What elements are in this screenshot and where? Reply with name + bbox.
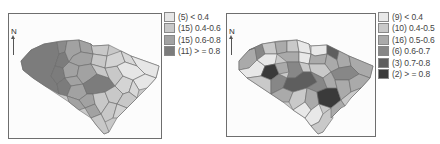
- legend-label: (16) 0.5-0.6: [392, 35, 435, 45]
- legend-swatch: [378, 12, 389, 22]
- legend-swatch: [164, 12, 175, 22]
- legend-swatch: [378, 58, 389, 68]
- legend-item: (5) < 0.4: [164, 11, 221, 23]
- legend-swatch: [378, 46, 389, 56]
- legend-label: (3) 0.7-0.8: [392, 58, 430, 68]
- right-map-frame: [226, 13, 376, 137]
- north-arrow: N: [11, 28, 17, 36]
- left-map-panel: N (5) < 0.4 (15) 0.4-0.6 (15) 0.6-0.8 (1…: [0, 0, 220, 144]
- legend-item: (6) 0.6-0.7: [378, 46, 435, 58]
- legend-label: (2) > = 0.8: [392, 69, 430, 79]
- legend-swatch: [164, 23, 175, 33]
- legend-item: (11) > = 0.8: [164, 46, 221, 58]
- legend-swatch: [378, 35, 389, 45]
- legend-label: (10) 0.4-0.5: [392, 23, 435, 33]
- right-map-legend: (9) < 0.4 (10) 0.4-0.5 (16) 0.5-0.6 (6) …: [378, 11, 435, 80]
- right-choropleth-map: [227, 14, 375, 136]
- legend-swatch: [378, 23, 389, 33]
- right-map-panel: N (9) < 0.4 (10) 0.4-0.5 (16) 0.5-0.6 (6…: [220, 0, 440, 144]
- legend-label: (9) < 0.4: [392, 12, 423, 22]
- legend-swatch: [164, 35, 175, 45]
- legend-item: (3) 0.7-0.8: [378, 57, 435, 69]
- north-arrow: N: [229, 28, 235, 36]
- legend-label: (15) 0.4-0.6: [178, 23, 221, 33]
- legend-swatch: [164, 46, 175, 56]
- legend-label: (5) < 0.4: [178, 12, 209, 22]
- north-arrow-shaft: [231, 37, 232, 55]
- legend-item: (9) < 0.4: [378, 11, 435, 23]
- legend-item: (15) 0.4-0.6: [164, 23, 221, 35]
- legend-label: (6) 0.6-0.7: [392, 46, 430, 56]
- north-arrow-shaft: [13, 37, 14, 55]
- legend-swatch: [378, 69, 389, 79]
- left-map-legend: (5) < 0.4 (15) 0.4-0.6 (15) 0.6-0.8 (11)…: [164, 11, 221, 57]
- legend-label: (15) 0.6-0.8: [178, 35, 221, 45]
- legend-item: (16) 0.5-0.6: [378, 34, 435, 46]
- legend-item: (2) > = 0.8: [378, 69, 435, 81]
- legend-item: (15) 0.6-0.8: [164, 34, 221, 46]
- legend-label: (11) > = 0.8: [178, 46, 220, 56]
- left-map-frame: [8, 13, 162, 139]
- left-choropleth-map: [9, 14, 161, 138]
- legend-item: (10) 0.4-0.5: [378, 23, 435, 35]
